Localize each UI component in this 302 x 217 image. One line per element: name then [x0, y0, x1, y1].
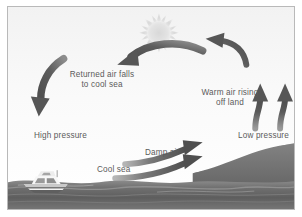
diagram-scene: Returned air falls to cool sea Warm air …	[8, 7, 294, 209]
label-warm-air-line2: off land	[184, 98, 276, 108]
diagram-frame: Returned air falls to cool sea Warm air …	[7, 6, 295, 210]
diagram-graphics	[8, 7, 294, 209]
label-returned-air-line1: Returned air falls	[54, 70, 150, 80]
label-returned-air-line2: to cool sea	[54, 80, 150, 90]
label-returned-air: Returned air falls to cool sea	[54, 70, 150, 90]
label-damp-air: Damp air	[145, 148, 179, 158]
label-warm-air: Warm air rising off land	[184, 88, 276, 108]
label-cool-sea: Cool sea	[97, 165, 131, 175]
label-low-pressure: Low pressure	[238, 131, 289, 141]
label-warm-air-line1: Warm air rising	[184, 88, 276, 98]
label-high-pressure: High pressure	[34, 131, 87, 141]
sea-breeze-diagram: Returned air falls to cool sea Warm air …	[0, 0, 302, 217]
